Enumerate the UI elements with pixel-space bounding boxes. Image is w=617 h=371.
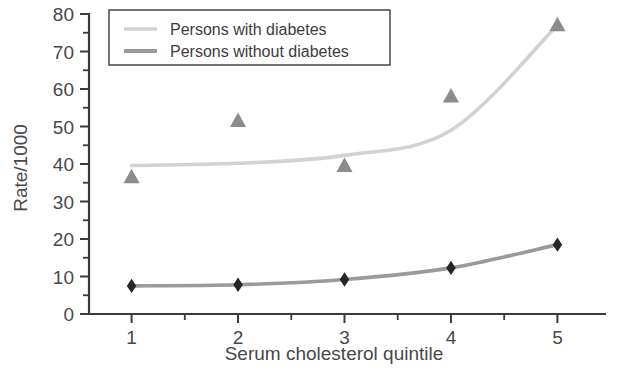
y-axis-tick-label: 0 — [63, 304, 74, 325]
y-axis-tick-label: 40 — [53, 154, 74, 175]
line-chart: 01020304050607080 12345 Rate/1000 Serum … — [0, 0, 617, 371]
chart-legend: Persons with diabetes Persons without di… — [109, 10, 390, 65]
y-axis-tick-label: 20 — [53, 229, 74, 250]
y-axis: 01020304050607080 — [53, 4, 89, 325]
legend-label-without-diabetes: Persons without diabetes — [170, 43, 349, 60]
x-axis-tick-label: 1 — [126, 327, 137, 348]
y-axis-tick-label: 80 — [53, 4, 74, 25]
legend-label-with-diabetes: Persons with diabetes — [170, 21, 327, 38]
x-axis-title: Serum cholesterol quintile — [225, 343, 444, 364]
y-axis-tick-label: 10 — [53, 267, 74, 288]
y-axis-tick-label: 30 — [53, 192, 74, 213]
x-axis-tick-label: 5 — [552, 327, 563, 348]
y-axis-title: Rate/1000 — [10, 124, 31, 212]
x-axis-tick-label: 4 — [446, 327, 457, 348]
chart-container: 01020304050607080 12345 Rate/1000 Serum … — [0, 0, 617, 371]
y-axis-tick-label: 50 — [53, 117, 74, 138]
y-axis-tick-label: 70 — [53, 42, 74, 63]
y-axis-tick-label: 60 — [53, 79, 74, 100]
